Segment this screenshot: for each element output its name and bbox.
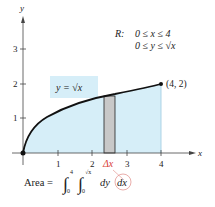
- y-axis-arrow-icon: [21, 16, 25, 23]
- region-line1: 0 ≤ x ≤ 4: [135, 28, 170, 39]
- x-tick-1: 1: [56, 159, 61, 169]
- inner-upper-limit: √x: [85, 169, 91, 175]
- curve-label: y = √x: [55, 82, 83, 93]
- x-tick-3: 3: [125, 159, 130, 169]
- delta-x-label: Δx: [102, 158, 114, 169]
- region-name: R:: [114, 28, 124, 39]
- y-tick-3: 3: [13, 44, 18, 54]
- outer-upper-limit: 4: [70, 169, 73, 175]
- endpoint: [159, 82, 163, 86]
- inner-lower-limit: 0: [82, 188, 85, 194]
- x-axis-label: x: [197, 148, 202, 158]
- y-tick-1: 1: [13, 113, 18, 123]
- representative-rectangle: [104, 96, 115, 153]
- origin-point: [21, 151, 26, 156]
- x-tick-2: 2: [90, 159, 95, 169]
- point-label: (4, 2): [166, 79, 187, 90]
- diagram-svg: 1 2 3 4 1 2 3 x y y = √x (4, 2) R: 0 ≤ x…: [0, 0, 215, 207]
- y-tick-2: 2: [13, 79, 18, 89]
- outer-lower-limit: 0: [67, 188, 70, 194]
- x-tick-4: 4: [159, 159, 164, 169]
- region-line2: 0 ≤ y ≤ √x: [135, 40, 176, 51]
- dx-term: dx: [117, 177, 127, 188]
- dy-term: dy: [100, 177, 110, 188]
- y-axis-label: y: [19, 3, 24, 13]
- x-axis-arrow-icon: [189, 151, 196, 155]
- area-prefix: Area =: [24, 177, 53, 188]
- double-integral-area-diagram: 1 2 3 4 1 2 3 x y y = √x (4, 2) R: 0 ≤ x…: [0, 0, 215, 207]
